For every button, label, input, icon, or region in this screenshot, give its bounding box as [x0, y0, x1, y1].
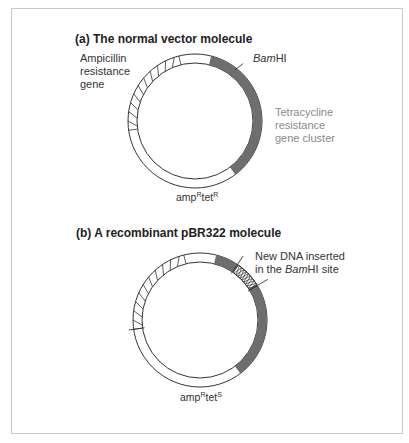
plasmid-a [128, 54, 262, 188]
plasmid-diagrams [0, 0, 409, 443]
plasmid-b [129, 253, 268, 387]
